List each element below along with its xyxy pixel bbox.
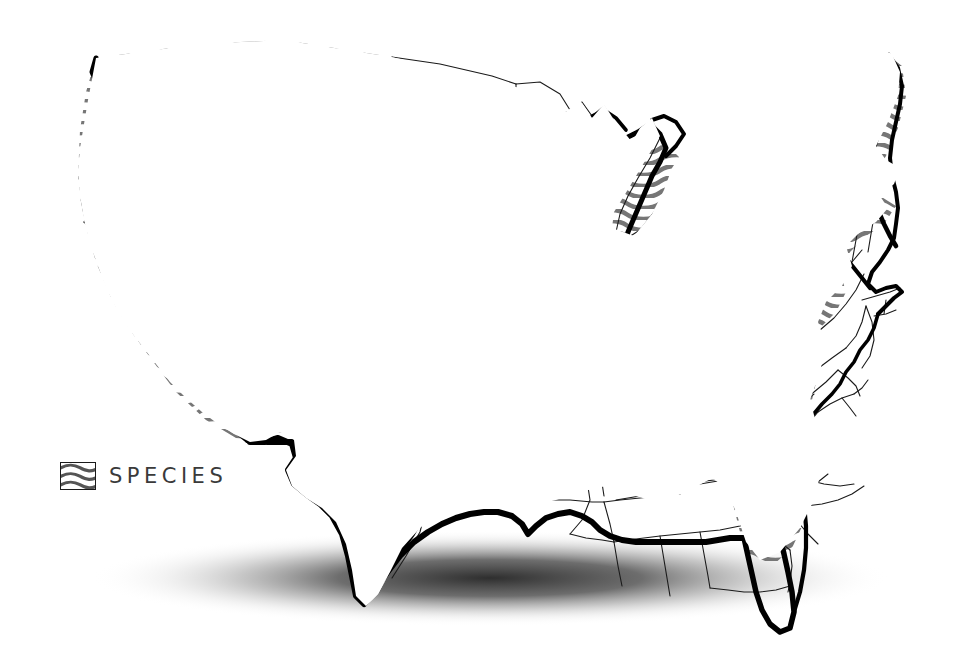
legend-label-species: SPECIES [109, 466, 227, 487]
species-distribution-map: SPECIES [0, 0, 975, 656]
legend-swatch-species [60, 462, 96, 490]
wavy-hatch-icon [61, 463, 95, 489]
map-legend: SPECIES [60, 462, 227, 490]
conus-outline [78, 40, 900, 606]
map-svg-canvas [0, 0, 975, 656]
